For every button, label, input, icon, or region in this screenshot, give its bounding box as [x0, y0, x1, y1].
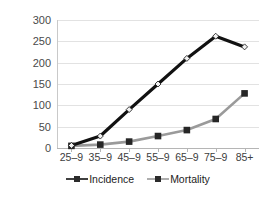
series-layer — [0, 0, 276, 197]
legend-label-mortality: Mortality — [170, 173, 210, 185]
legend-item-incidence[interactable]: Incidence — [66, 173, 134, 185]
legend-marker-mortality-icon — [147, 174, 169, 184]
legend-marker-incidence-icon — [66, 174, 88, 184]
chart-legend: Incidence Mortality — [0, 173, 276, 185]
legend-label-incidence: Incidence — [89, 173, 134, 185]
chart-container: 300 250 200 150 100 50 0 25–9 35–9 45–9 … — [0, 0, 276, 197]
legend-item-mortality[interactable]: Mortality — [147, 173, 210, 185]
